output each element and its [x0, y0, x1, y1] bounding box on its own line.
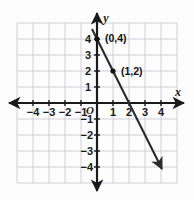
origin-label: O [86, 104, 94, 116]
data-point-label-0-4: (0,4) [105, 32, 127, 44]
y-tick-label-1: 1 [85, 81, 91, 93]
y-tick-label-3: 3 [85, 49, 91, 61]
y-axis-label: y [101, 11, 109, 25]
data-point-0-4 [94, 36, 99, 41]
x-tick-label-3: 3 [142, 106, 148, 118]
x-tick-label-4: 4 [158, 106, 165, 118]
y-tick-label--4: −4 [80, 161, 93, 173]
y-tick-label--3: −3 [80, 145, 93, 157]
data-point-1-2 [110, 68, 115, 73]
x-tick-label-1: 1 [110, 106, 116, 118]
graph-screenshot: −4 −3 −2 −1 1 2 3 4 4 3 2 1 −1 −2 −3 −4 … [0, 0, 194, 200]
data-point-label-1-2: (1,2) [121, 65, 143, 77]
coordinate-plane-graph: −4 −3 −2 −1 1 2 3 4 4 3 2 1 −1 −2 −3 −4 … [0, 0, 194, 200]
x-tick-label--2: −2 [59, 106, 72, 118]
x-tick-label--4: −4 [27, 106, 40, 118]
y-tick-label-4: 4 [85, 33, 92, 45]
x-tick-label--3: −3 [43, 106, 56, 118]
y-tick-label--2: −2 [80, 129, 93, 141]
y-tick-label-2: 2 [85, 65, 91, 77]
x-axis-label: x [174, 85, 181, 99]
